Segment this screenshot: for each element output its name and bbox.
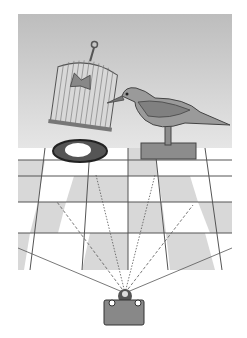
wall-background [18,14,232,149]
checkered-floor [18,148,232,270]
scene-illustration [0,0,247,338]
camera [104,289,144,325]
egg [65,143,91,157]
nest [53,140,107,162]
